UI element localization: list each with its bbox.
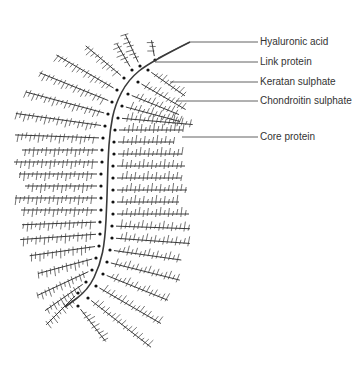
link-protein-dot [112, 152, 115, 155]
link-protein-dot [111, 200, 114, 203]
link-protein-dot [86, 296, 89, 299]
link-protein-dot [94, 284, 97, 287]
link-protein-dot [110, 224, 113, 227]
link-protein-dot [116, 116, 119, 119]
label-keratan-sulphate: Keratan sulphate [260, 76, 336, 88]
link-protein-dot [115, 88, 118, 91]
label-hyaluronic-acid: Hyaluronic acid [260, 36, 328, 48]
link-protein-dot [99, 172, 102, 175]
proteoglycan-chain [21, 207, 103, 217]
proteoglycan-chain [111, 171, 182, 181]
link-protein-dot [136, 80, 139, 83]
proteoglycan-chain [126, 92, 179, 116]
proteoglycan-chain [25, 183, 103, 193]
proteoglycan-chain [14, 159, 104, 169]
link-protein-dot [110, 100, 113, 103]
proteoglycan-chain [146, 68, 186, 97]
proteoglycan-chain [111, 159, 185, 169]
proteoglycan-chain [121, 34, 142, 68]
link-protein-dot [138, 64, 141, 67]
link-protein-dot [110, 236, 113, 239]
link-protein-dot [113, 128, 116, 131]
link-protein-dot [112, 140, 115, 143]
proteoglycan-chain [22, 147, 104, 157]
proteoglycan-chain [15, 132, 105, 144]
proteoglycan-chain [22, 220, 102, 232]
link-protein-dot [108, 248, 111, 251]
proteoglycan-chain [54, 55, 119, 92]
proteoglycan-chain [20, 232, 101, 247]
proteoglycan-chain [15, 111, 107, 130]
proteoglycan-chain [86, 296, 153, 347]
proteoglycan-chain [101, 272, 169, 301]
link-protein-dot [105, 260, 108, 263]
proteoglycan-chain [111, 183, 187, 193]
link-protein-dot [84, 280, 87, 283]
link-protein-dot [98, 232, 101, 235]
label-link-protein: Link protein [260, 56, 312, 68]
proteoglycan-chain [15, 195, 103, 205]
proteoglycan-chain [147, 40, 157, 61]
link-protein-dot [101, 272, 104, 275]
proteoglycan-chain [30, 244, 101, 261]
label-core-protein: Core protein [260, 131, 315, 143]
proteoglycan-chain [24, 90, 110, 117]
proteoglycan-chain [112, 135, 174, 145]
proteoglycan-chain [112, 147, 183, 157]
link-protein-dot [100, 148, 103, 151]
proteoglycan-chain [110, 232, 189, 246]
link-protein-dot [90, 268, 93, 271]
proteoglycan-chain [108, 246, 181, 263]
proteoglycan-aggregate-diagram [0, 0, 362, 366]
link-protein-dot [100, 160, 103, 163]
link-protein-dot [111, 176, 114, 179]
link-protein-dot [111, 164, 114, 167]
link-protein-dot [111, 212, 114, 215]
link-protein-dot [99, 184, 102, 187]
proteoglycan-chain [46, 291, 80, 328]
link-protein-dot [97, 244, 100, 247]
proteoglycan-chain [113, 43, 133, 72]
proteoglycan-chain [111, 207, 189, 217]
proteoglycan-chain [45, 280, 88, 313]
proteoglycan-chain [111, 195, 179, 205]
link-protein-dot [98, 220, 101, 223]
link-protein-dot [111, 188, 114, 191]
proteoglycan-chain [110, 219, 190, 231]
proteoglycan-chain [19, 171, 103, 181]
link-protein-dot [103, 124, 106, 127]
link-protein-dot [94, 256, 97, 259]
link-protein-dot [122, 76, 125, 79]
link-protein-dot [76, 304, 79, 307]
proteoglycan-chain [38, 256, 98, 278]
core-protein-chains [14, 34, 193, 348]
link-protein-dot [101, 136, 104, 139]
link-protein-dot [126, 92, 129, 95]
link-protein-dot [130, 68, 133, 71]
proteoglycan-chain [113, 123, 184, 133]
link-protein-dot [106, 112, 109, 115]
proteoglycan-chain [37, 268, 94, 299]
link-protein-dot [99, 208, 102, 211]
link-protein-dot [146, 68, 149, 71]
label-chondroitin-sulphate: Chondroitin sulphate [260, 95, 352, 107]
link-protein-dot [76, 291, 79, 294]
proteoglycan-chain [105, 259, 179, 283]
link-protein-dot [120, 104, 123, 107]
link-protein-dot [99, 196, 102, 199]
